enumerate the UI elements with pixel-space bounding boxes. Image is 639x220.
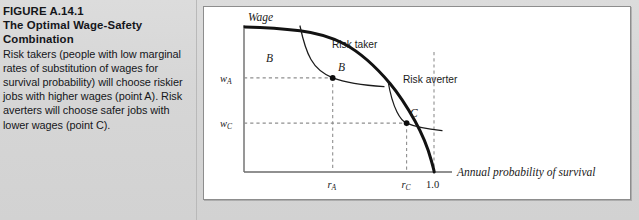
y-tick-label-wA: wA [220, 73, 232, 86]
figure-caption-block: FIGURE A.14.1 The Optimal Wage-Safety Co… [3, 4, 193, 216]
y-axis-tick-labels: wA wC [220, 73, 233, 132]
column-divider-rule [196, 0, 197, 220]
data-point-B-label: B [338, 61, 345, 73]
x-tick-label-rA: rA [328, 179, 337, 192]
x-tick-label-one-point-zero: 1.0 [426, 179, 439, 190]
data-point-A-marker [330, 75, 336, 81]
risk-averter-curve-label: Risk averter [403, 74, 458, 85]
data-point-C-label: C [410, 107, 418, 119]
y-tick-label-wC: wC [220, 118, 233, 131]
y-axis-title: Wage [248, 11, 273, 24]
wage-safety-chart: Wage Annual probability of survival B C … [204, 7, 630, 199]
x-axis-tick-labels: rA rC 1.0 [328, 179, 440, 192]
frontier-point-B-label: B [266, 52, 273, 64]
figure-number: FIGURE A.14.1 [3, 5, 84, 17]
risk-taker-curve-label: Risk taker [332, 39, 378, 50]
figure-title: The Optimal Wage-Safety Combination [3, 19, 142, 45]
figure-chart-panel: Wage Annual probability of survival B C … [203, 6, 631, 200]
figure-caption-text: Risk takers (people with low marginal ra… [3, 47, 193, 132]
x-axis-title: Annual probability of survival [456, 166, 596, 179]
data-point-C-marker [404, 120, 410, 126]
figure-number-and-title: FIGURE A.14.1 The Optimal Wage-Safety Co… [3, 4, 193, 47]
x-tick-label-rC: rC [402, 179, 412, 192]
